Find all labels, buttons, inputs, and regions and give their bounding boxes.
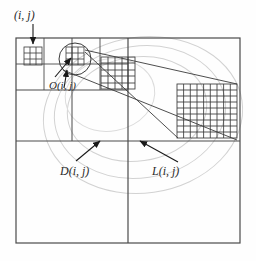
small-grid-left <box>24 47 42 65</box>
large-grid-callout <box>177 84 237 138</box>
callout-connector-group <box>63 50 237 140</box>
arrow-domain-dij <box>76 141 100 161</box>
figure-canvas <box>0 0 256 261</box>
label-level-lij: L(i, j) <box>152 164 179 179</box>
label-octant-oij: O(i, j) <box>49 79 76 91</box>
quadtree-figure: (i, j) O(i, j) D(i, j) L(i, j) <box>0 0 256 261</box>
label-domain-dij: D(i, j) <box>60 164 89 179</box>
callout-line-bottom <box>63 70 237 140</box>
small-grid-right <box>66 47 84 65</box>
label-cell-ij: (i, j) <box>14 8 35 23</box>
